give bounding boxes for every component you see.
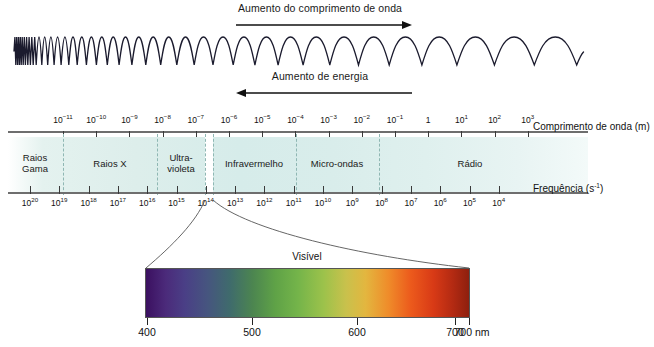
frequency-tick	[411, 186, 412, 194]
visible-spectrum-bar	[145, 268, 470, 318]
visible-tick-label: 500	[243, 326, 261, 338]
frequency-tick	[177, 186, 178, 194]
wavelength-tick-label: 10−8	[154, 115, 171, 125]
band-label-line: Raios	[13, 152, 57, 163]
band-label-ultravioleta: Ultra-violeta	[159, 152, 203, 174]
increasing-energy-label: Aumento de energia	[210, 70, 430, 82]
band-label-line: violeta	[159, 163, 203, 174]
frequency-tick	[147, 186, 148, 194]
frequency-tick	[59, 186, 60, 194]
increasing-energy-arrow	[236, 88, 412, 98]
visible-tick	[357, 318, 358, 325]
frequency-tick	[89, 186, 90, 194]
wave-illustration	[12, 30, 587, 72]
wavelength-tick-label: 10−11	[53, 115, 73, 125]
wavelength-tick-label: 10−9	[121, 115, 138, 125]
band-label-line: Ultra-	[159, 152, 203, 163]
wavelength-tick-label: 101	[455, 115, 468, 125]
increasing-wavelength-label: Aumento do comprimento de onda	[210, 2, 430, 14]
frequency-axis-line	[8, 192, 588, 194]
frequency-tick	[440, 186, 441, 194]
wavelength-tick-label: 10−6	[221, 115, 238, 125]
band-label-raios-x: Raios X	[93, 158, 126, 169]
frequency-tick	[352, 186, 353, 194]
visible-spectrum-title: Visível	[292, 251, 321, 262]
wavelength-tick-label: 1	[426, 115, 431, 125]
frequency-tick	[206, 186, 207, 194]
electromagnetic-spectrum-figure: Aumento do comprimento de onda Aumento d…	[0, 0, 654, 347]
visible-tick-edge	[469, 318, 470, 325]
visible-tick-label: 600	[348, 326, 366, 338]
wavelength-tick-label: 10−3	[320, 115, 337, 125]
visible-tick	[147, 318, 148, 325]
visible-callout-lines	[0, 196, 654, 274]
visible-tick-label: 400	[138, 326, 156, 338]
band-label-infravermelho: Infravermelho	[225, 158, 283, 169]
band-label-micro-ondas: Micro-ondas	[311, 158, 363, 169]
frequency-tick	[30, 186, 31, 194]
visible-edge-label: 700 nm	[454, 326, 489, 338]
visible-tick	[455, 318, 456, 325]
frequency-tick	[118, 186, 119, 194]
band-divider	[63, 134, 64, 195]
frequency-axis-label-text: Frequência (s	[533, 183, 594, 194]
frequency-tick	[264, 186, 265, 194]
wavelength-tick-label: 10−7	[188, 115, 205, 125]
frequency-tick	[294, 186, 295, 194]
frequency-axis-label-tail: )	[600, 183, 603, 194]
frequency-tick	[323, 186, 324, 194]
wavelength-axis-label: Comprimento de onda (m)	[533, 121, 650, 132]
wavelength-tick-label: 10−1	[387, 115, 404, 125]
increasing-wavelength-arrow	[236, 20, 412, 30]
wavelength-tick-label: 10−2	[354, 115, 371, 125]
wavelength-tick-label: 10−10	[86, 115, 106, 125]
band-label-line: Gama	[13, 163, 57, 174]
frequency-tick	[382, 186, 383, 194]
wavelength-axis-line	[8, 131, 588, 133]
wavelength-tick-label: 102	[488, 115, 501, 125]
band-divider	[296, 134, 297, 195]
frequency-tick	[470, 186, 471, 194]
frequency-tick	[499, 186, 500, 194]
wavelength-tick-label: 10−5	[254, 115, 271, 125]
band-divider	[157, 134, 158, 195]
frequency-axis-label: Frequência (s-1)	[533, 182, 603, 194]
frequency-tick	[235, 186, 236, 194]
visible-light-gap	[205, 137, 213, 192]
visible-tick	[252, 318, 253, 325]
band-label-r-dio: Rádio	[458, 158, 483, 169]
band-label-raios-gama: RaiosGama	[13, 152, 57, 174]
band-divider	[379, 134, 380, 195]
band-divider	[213, 134, 214, 195]
wavelength-tick-label: 10−4	[287, 115, 304, 125]
